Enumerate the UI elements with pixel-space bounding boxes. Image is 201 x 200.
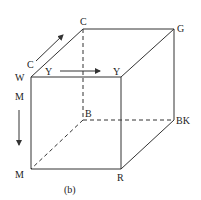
axis-label-m: M <box>15 91 24 102</box>
vertex-label-g: G <box>177 23 184 34</box>
vertex-label-w: W <box>15 72 25 83</box>
vertex-label-y: Y <box>113 66 120 77</box>
vertex-label-r: R <box>117 172 124 183</box>
front-face <box>31 77 121 169</box>
vertex-label-c: C <box>80 16 87 27</box>
figure-caption: (b) <box>64 184 76 196</box>
vertex-label-bk: BK <box>176 115 191 126</box>
hidden-edges <box>31 29 174 169</box>
vertex-label-m: M <box>15 169 24 180</box>
color-cube-diagram: C G W Y B BK M R C Y M (b) <box>0 0 201 200</box>
visible-edges <box>31 29 174 169</box>
axis-label-y: Y <box>45 66 52 77</box>
vertex-label-b: B <box>85 108 92 119</box>
axis-label-c: C <box>27 59 34 70</box>
c-axis-arrow <box>36 35 63 61</box>
